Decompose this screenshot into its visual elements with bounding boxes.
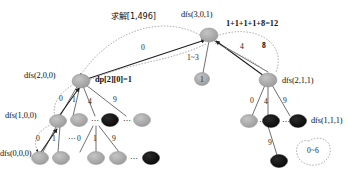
ellipsis-row4: ⋯ bbox=[130, 154, 138, 163]
label-dfs-1-0-0: dfs(1,0,0) bbox=[5, 112, 37, 120]
recursion-tree-diagram: 求解[1,496] dfs(3,0,1) 1+1+1+1+8=12 dfs(2,… bbox=[0, 0, 349, 180]
node-dfs-1-1-1 bbox=[290, 115, 307, 128]
edge-label-n211-c4: 4 bbox=[264, 98, 268, 106]
node-row4-black bbox=[143, 152, 160, 165]
node-dfs-0-0-0 bbox=[32, 152, 49, 165]
edge-n200-c9 bbox=[86, 85, 126, 116]
edge-label-nblk-c1: 1 bbox=[93, 135, 97, 143]
edge-n100-c1 bbox=[58, 126, 60, 152]
edge-label-n211-c0: 0 bbox=[250, 97, 254, 105]
node-dfs-2-1-1 bbox=[259, 73, 277, 87]
ellipsis-row3-a: ⋯ bbox=[91, 116, 99, 125]
node-value-1-text: 1 bbox=[200, 75, 204, 84]
node-row4-r-black bbox=[271, 155, 288, 168]
ellipsis-row3-b: ⋯ bbox=[123, 116, 131, 125]
node-dfs-2-0-0 bbox=[72, 74, 90, 88]
edge-label-n200-c0: 0 bbox=[59, 95, 63, 103]
node-row3-b bbox=[71, 114, 88, 127]
node-row3-black bbox=[102, 114, 119, 127]
edge-label-n111-c9: 9 bbox=[268, 139, 272, 147]
label-dfs-2-0-0: dfs(2,0,0) bbox=[24, 72, 56, 80]
ellipsis-row3-right: ⋯ bbox=[282, 117, 290, 126]
label-dfs-1-1-1: dfs(1,1,1) bbox=[311, 117, 343, 125]
edge-label-n211-root: 8 bbox=[262, 42, 266, 50]
node-dfs-1-0-0 bbox=[50, 115, 67, 128]
label-dfs-0-0-0: dfs(0,0,0) bbox=[0, 150, 32, 158]
node-row3-r-a bbox=[241, 115, 258, 128]
edge-root-mid bbox=[203, 41, 209, 73]
node-row4-b bbox=[53, 152, 70, 165]
label-dfs-2-1-1: dfs(2,1,1) bbox=[282, 77, 314, 85]
label-dfs-3-0-1: dfs(3,0,1) bbox=[181, 11, 213, 19]
edge-nblk-c0 bbox=[80, 126, 93, 152]
edge-label-nblk-c9: 9 bbox=[112, 135, 116, 143]
edge-label-n200-c4: 4 bbox=[88, 98, 92, 106]
edge-label-n200-c1: 1 bbox=[72, 96, 76, 104]
edge-label-root-n211: 4 bbox=[240, 43, 244, 51]
edge-label-root-mid: 1~3 bbox=[187, 54, 199, 62]
node-root bbox=[200, 28, 218, 42]
ellipsis-n100: ⋯ bbox=[68, 134, 76, 143]
edge-label-n200-c9: 9 bbox=[113, 96, 117, 104]
solve-note: 求解[1,496] bbox=[111, 12, 156, 20]
curve-root-n211-outer bbox=[214, 32, 278, 72]
edge-nblk-c9 bbox=[99, 126, 119, 152]
edge-label-root-n200: 0 bbox=[141, 44, 145, 52]
dp-note: dp[2][0]=1 bbox=[95, 76, 132, 84]
edge-label-n100-c1: 1 bbox=[52, 135, 56, 143]
node-row4-c bbox=[88, 152, 105, 165]
node-row4-d bbox=[110, 152, 127, 165]
edge-label-nblk-c0: 0 bbox=[77, 135, 81, 143]
root-formula: 1+1+1+1+8=12 bbox=[226, 20, 278, 28]
edge-label-n100-c0: 0 bbox=[36, 135, 40, 143]
edge-label-n211-c9: 9 bbox=[283, 97, 287, 105]
ellipsis-row3-right-b: ⋯ bbox=[259, 117, 267, 126]
diagram-canvas bbox=[0, 0, 349, 180]
node-row3-d bbox=[134, 114, 151, 127]
blob-label: 0~6 bbox=[307, 147, 319, 155]
edge-n211-c9 bbox=[272, 85, 290, 116]
